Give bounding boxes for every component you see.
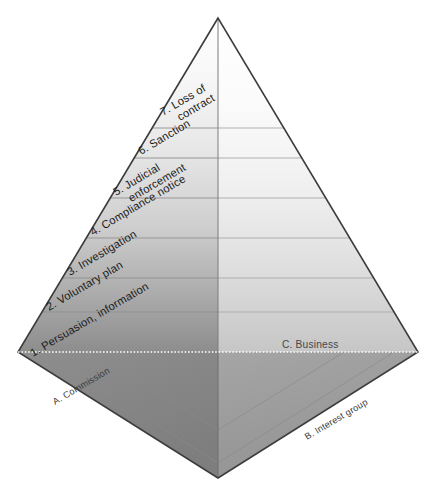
face-label-business: C. Business <box>282 339 339 350</box>
face-label-business-text: C. Business <box>282 339 339 350</box>
pyramid-diagram: 7. Loss of contract 6. Sanction 5. Judic… <box>0 0 435 491</box>
pyramid-svg: 7. Loss of contract 6. Sanction 5. Judic… <box>0 0 435 491</box>
